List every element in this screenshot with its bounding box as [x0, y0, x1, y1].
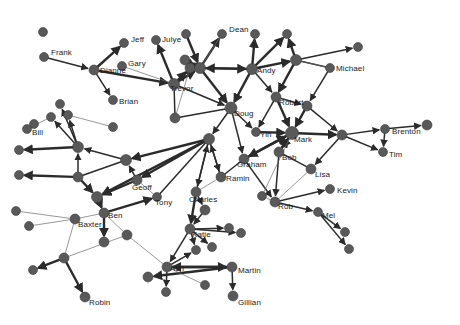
graph-edge: [256, 38, 283, 65]
graph-node-martin[interactable]: [227, 262, 237, 272]
graph-edge: [346, 130, 379, 135]
node-label-trevor: Trevor: [170, 85, 193, 93]
node-label-gillian: Gillian: [238, 299, 261, 307]
graph-node[interactable]: [291, 55, 302, 66]
graph-node[interactable]: [15, 171, 24, 180]
graph-node[interactable]: [204, 134, 215, 145]
graph-edge: [68, 237, 123, 257]
graph-node[interactable]: [200, 205, 210, 215]
graph-edge: [25, 175, 74, 177]
graph-node[interactable]: [195, 63, 206, 74]
node-label-dean: Dean: [229, 26, 249, 34]
graph-node[interactable]: [15, 146, 24, 155]
graph-edge: [289, 39, 295, 55]
graph-edge: [310, 71, 328, 100]
graph-node-ramin[interactable]: [216, 172, 226, 182]
node-label-charles: Charles: [189, 196, 217, 204]
graph-edge: [99, 202, 102, 208]
graph-node[interactable]: [201, 281, 210, 290]
node-label-ramin: Ramin: [226, 175, 250, 183]
graph-edge: [131, 238, 164, 264]
graph-node-brenton[interactable]: [381, 125, 390, 134]
node-label-robert: Robert: [279, 99, 304, 107]
graph-edge: [103, 182, 133, 195]
graph-node[interactable]: [59, 253, 69, 263]
node-label-mark: Mark: [294, 136, 312, 144]
graph-node-dean[interactable]: [218, 30, 227, 39]
graph-node[interactable]: [29, 266, 38, 275]
graph-node[interactable]: [92, 192, 103, 203]
graph-node[interactable]: [283, 30, 292, 39]
graph-edge: [82, 162, 121, 176]
graph-node[interactable]: [185, 63, 195, 73]
node-label-michael: Michael: [336, 65, 364, 73]
graph-edge: [213, 112, 228, 133]
graph-node[interactable]: [99, 237, 109, 247]
node-label-gary: Gary: [128, 60, 146, 68]
graph-node[interactable]: [208, 243, 217, 252]
graph-node[interactable]: [422, 120, 432, 130]
graph-node[interactable]: [73, 142, 84, 153]
node-label-rob: Rob: [278, 203, 293, 211]
graph-edge: [65, 223, 74, 253]
graph-node[interactable]: [143, 272, 153, 282]
graph-node[interactable]: [192, 246, 201, 255]
node-label-jeff: Jeff: [131, 36, 144, 44]
graph-node[interactable]: [337, 130, 347, 140]
graph-node[interactable]: [109, 123, 118, 132]
graph-node[interactable]: [73, 172, 83, 182]
node-label-geoff: Geoff: [132, 184, 152, 192]
graph-node-tim[interactable]: [379, 148, 388, 157]
node-label-robin: Robin: [89, 299, 110, 307]
graph-node-jeff[interactable]: [120, 39, 129, 48]
graph-edge: [194, 214, 202, 225]
graph-node[interactable]: [354, 43, 363, 52]
graph-node[interactable]: [12, 207, 21, 216]
graph-node[interactable]: [39, 28, 48, 37]
node-label-mel: Mel: [322, 212, 335, 220]
graph-node[interactable]: [162, 288, 171, 297]
node-label-kevin: Kevin: [337, 187, 358, 195]
graph-node[interactable]: [225, 224, 234, 233]
graph-edge: [203, 37, 220, 63]
graph-node[interactable]: [182, 30, 191, 39]
graph-node[interactable]: [237, 229, 246, 238]
graph-node[interactable]: [341, 228, 350, 237]
graph-edge: [266, 198, 271, 200]
edge-layer: [20, 37, 421, 291]
graph-node[interactable]: [47, 113, 56, 122]
graph-edge: [195, 228, 224, 229]
graph-node-andy[interactable]: [247, 64, 258, 75]
graph-edge: [232, 272, 233, 290]
node-label-lisa: Lisa: [315, 171, 330, 179]
graph-node[interactable]: [25, 222, 34, 231]
graph-node[interactable]: [122, 230, 132, 240]
graph-edge: [158, 45, 172, 79]
graph-node-gillian[interactable]: [228, 291, 238, 301]
graph-edge: [207, 68, 247, 69]
graph-edge: [48, 58, 88, 68]
graph-edge: [84, 149, 121, 159]
node-label-brian: Brian: [119, 98, 138, 106]
graph-node[interactable]: [56, 100, 65, 109]
node-label-bill: Bill: [32, 129, 43, 137]
graph-node[interactable]: [345, 245, 354, 254]
graph-node-michael[interactable]: [326, 64, 335, 73]
graph-node-dianne[interactable]: [89, 65, 99, 75]
node-label-yin: Yin: [260, 131, 272, 139]
node-label-ben: Ben: [108, 212, 123, 220]
graph-node[interactable]: [64, 111, 73, 120]
graph-node[interactable]: [170, 113, 180, 123]
graph-node-julye[interactable]: [152, 36, 161, 45]
graph-node-kevin[interactable]: [326, 185, 335, 194]
node-label-baxter: Baxter: [78, 221, 102, 229]
graph-edge: [255, 73, 272, 92]
graph-edge: [25, 147, 73, 149]
graph-node-brian[interactable]: [109, 96, 118, 105]
graph-node-frank[interactable]: [40, 53, 49, 62]
graph-node[interactable]: [121, 155, 132, 166]
graph-node[interactable]: [251, 30, 260, 39]
graph-node[interactable]: [258, 192, 267, 201]
graph-edge: [20, 212, 71, 219]
graph-edge: [96, 74, 110, 95]
